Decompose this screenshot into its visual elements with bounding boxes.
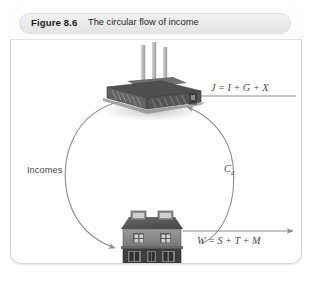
flow-label-injections: J = I + G + X — [211, 82, 269, 93]
figure-number: Figure 8.6 — [31, 17, 77, 28]
flow-consumption: C d — [187, 107, 235, 244]
flow-label-withdrawals: W = S + T + M — [197, 235, 261, 246]
factory-icon — [103, 42, 205, 121]
flow-label-incomes: Incomes — [27, 164, 63, 175]
figure-caption: The circular flow of income — [88, 17, 199, 27]
flow-label-consumption: C — [224, 163, 231, 174]
figure-container: Figure 8.6 The circular flow of income — [0, 0, 316, 287]
flow-injections: J = I + G + X — [191, 82, 296, 96]
figure-header: Figure 8.6 The circular flow of income — [10, 6, 302, 40]
house-icon — [118, 211, 186, 263]
diagram-canvas: Incomes C d J = I + G + X W = S + T + M — [11, 41, 301, 263]
flow-withdrawals: W = S + T + M — [183, 231, 293, 246]
flow-incomes: Incomes — [27, 101, 123, 248]
flow-label-consumption-subscript: d — [231, 169, 235, 176]
